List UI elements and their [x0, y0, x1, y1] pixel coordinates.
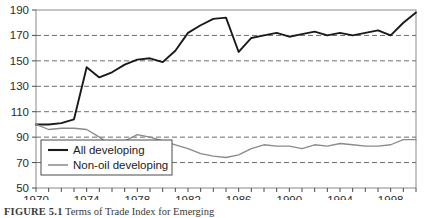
y-tick-label-130: 130 — [10, 80, 29, 92]
y-tick-label-150: 150 — [10, 55, 29, 67]
x-tick-label-1998: 1998 — [378, 194, 404, 200]
y-tick-label-110: 110 — [11, 106, 29, 118]
chart-plot-area: 507090110130150170190 197019741978198219… — [0, 0, 435, 200]
y-tick-label-90: 90 — [16, 131, 29, 143]
chart-legend: All developing Non-oil developing — [41, 140, 172, 175]
figure-container: 507090110130150170190 197019741978198219… — [0, 0, 435, 218]
x-axis-labels-group: 19701974197819821986199019941998 — [23, 194, 403, 200]
figure-caption: FIGURE 5.1 Terms of Trade Index for Emer… — [0, 206, 435, 218]
figure-caption-body: Terms of Trade Index for Emerging — [65, 206, 214, 217]
terms-of-trade-line-chart: 507090110130150170190 197019741978198219… — [0, 0, 435, 200]
y-tick-label-170: 170 — [10, 29, 29, 41]
x-axis-ticks-group — [36, 188, 416, 192]
figure-caption-text: FIGURE 5.1 Terms of Trade Index for Emer… — [0, 206, 435, 218]
x-tick-label-1978: 1978 — [125, 194, 151, 200]
x-tick-label-1974: 1974 — [74, 194, 100, 200]
y-axis-labels-group: 507090110130150170190 — [10, 4, 29, 194]
x-tick-label-1970: 1970 — [23, 194, 49, 200]
x-tick-label-1982: 1982 — [175, 194, 201, 200]
y-axis-ticks-group — [32, 10, 36, 188]
y-tick-label-190: 190 — [10, 4, 29, 16]
y-tick-label-50: 50 — [16, 182, 29, 194]
x-tick-label-1990: 1990 — [277, 194, 303, 200]
legend-label-all-developing: All developing — [73, 144, 145, 156]
figure-caption-label: FIGURE 5.1 — [4, 206, 63, 217]
legend-label-non-oil-developing: Non-oil developing — [73, 159, 168, 171]
x-tick-label-1986: 1986 — [226, 194, 252, 200]
y-tick-label-70: 70 — [16, 157, 29, 169]
x-tick-label-1994: 1994 — [327, 194, 353, 200]
